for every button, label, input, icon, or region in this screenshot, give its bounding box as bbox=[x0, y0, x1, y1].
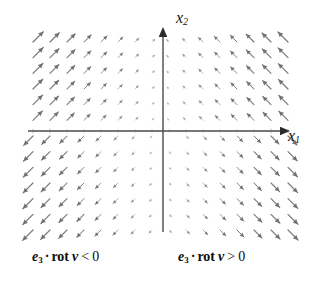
caption-right-rot: rot bbox=[197, 249, 215, 264]
caption-left-rot: rot bbox=[51, 249, 69, 264]
caption-right-zero: 0 bbox=[238, 249, 245, 264]
vector-field-canvas bbox=[0, 0, 313, 281]
axes-group bbox=[28, 36, 288, 232]
y-axis-label-sub: 2 bbox=[183, 16, 188, 27]
caption-right-relation: > bbox=[224, 249, 238, 264]
caption-left-relation: < bbox=[78, 249, 92, 264]
x-axis-label-sub: 1 bbox=[295, 134, 300, 145]
caption-right: e3·rotv>0 bbox=[178, 250, 245, 265]
y-axis-label: x2 bbox=[176, 10, 188, 27]
caption-left-v: v bbox=[69, 249, 78, 264]
vector-field-figure: x2 x1 e3·rotv<0 e3·rotv>0 bbox=[0, 0, 313, 281]
caption-left-zero: 0 bbox=[92, 249, 99, 264]
caption-left-e: e3 bbox=[32, 249, 43, 264]
caption-right-e: e3 bbox=[178, 249, 189, 264]
caption-right-v: v bbox=[215, 249, 224, 264]
arrow-glyph-group bbox=[23, 32, 299, 241]
caption-left: e3·rotv<0 bbox=[32, 250, 99, 265]
x-axis-label: x1 bbox=[288, 128, 300, 145]
